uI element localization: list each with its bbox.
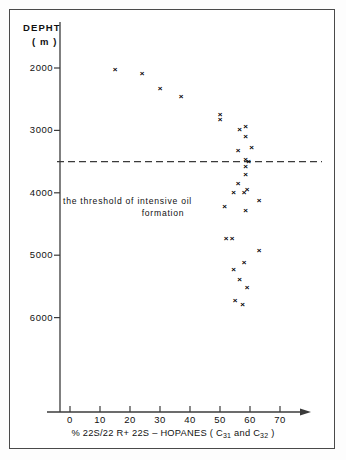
data-point: × bbox=[236, 180, 241, 188]
data-point: × bbox=[236, 147, 241, 155]
data-point: × bbox=[230, 235, 235, 243]
data-point: × bbox=[231, 189, 236, 197]
data-point: × bbox=[222, 203, 227, 211]
data-point: × bbox=[242, 189, 247, 197]
data-point: × bbox=[237, 276, 242, 284]
data-point: × bbox=[243, 123, 248, 131]
data-point: × bbox=[257, 197, 262, 205]
x-axis-title: % 22S/22 R+ 22S – HOPANES ( C31 and C32 … bbox=[0, 428, 346, 438]
x-axis-arrow bbox=[300, 409, 311, 416]
data-point: × bbox=[243, 171, 248, 179]
data-point: × bbox=[158, 85, 163, 93]
data-point: × bbox=[240, 301, 245, 309]
data-point: × bbox=[140, 70, 145, 78]
data-point: × bbox=[233, 297, 238, 305]
plot-area bbox=[0, 0, 346, 460]
data-point: × bbox=[237, 126, 242, 134]
figure-scatter-hopanes: DEPHT ( m ) 2000300040005000600001020304… bbox=[0, 0, 346, 460]
data-point: × bbox=[249, 144, 254, 152]
data-point: × bbox=[224, 235, 229, 243]
data-point: × bbox=[218, 116, 223, 124]
data-point: × bbox=[257, 247, 262, 255]
data-point: × bbox=[231, 266, 236, 274]
data-point: × bbox=[245, 284, 250, 292]
data-point: × bbox=[242, 259, 247, 267]
data-point: × bbox=[179, 93, 184, 101]
data-point: × bbox=[243, 207, 248, 215]
data-point: × bbox=[243, 133, 248, 141]
data-point: × bbox=[113, 66, 118, 74]
